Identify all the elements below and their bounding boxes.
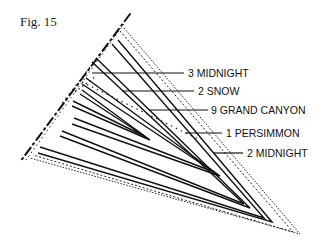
label-3-midnight: 3 MIDNIGHT — [188, 68, 249, 79]
label-2-midnight: 2 MIDNIGHT — [247, 148, 308, 159]
label-9-grand-canyon: 9 GRAND CANYON — [211, 105, 306, 116]
label-1-persimmon: 1 PERSIMMON — [226, 128, 300, 139]
diagram-canvas: Fig. 15 — [0, 0, 322, 240]
label-2-snow: 2 SNOW — [198, 86, 239, 97]
outer-border — [20, 14, 130, 162]
nested-triangle-diagram — [0, 0, 322, 240]
